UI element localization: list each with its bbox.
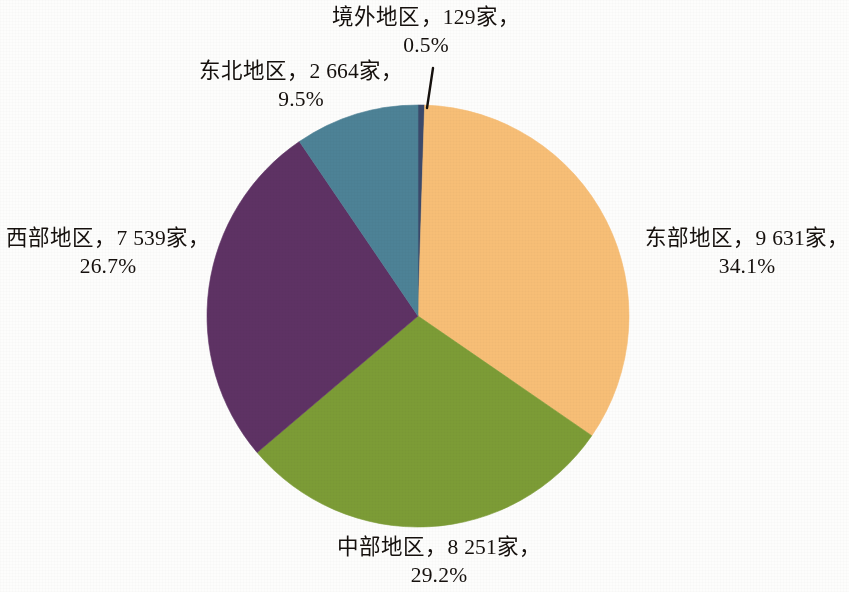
- slice-label-east: 东部地区，9 631家， 34.1%: [632, 225, 849, 281]
- slice-label-northeast: 东北地区，2 664家， 9.5%: [166, 58, 436, 114]
- slice-label-west-line1: 西部地区，7 539家，: [6, 226, 211, 250]
- slice-label-central: 中部地区，8 251家， 29.2%: [304, 534, 574, 590]
- pie-slice-group: [207, 105, 629, 527]
- pie-chart-figure: 境外地区，129家， 0.5% 东北地区，2 664家， 9.5% 西部地区，7…: [0, 0, 849, 592]
- slice-label-east-line2: 34.1%: [632, 253, 849, 281]
- slice-label-east-line1: 东部地区，9 631家，: [645, 226, 849, 250]
- slice-label-central-line1: 中部地区，8 251家，: [337, 535, 542, 559]
- slice-label-west: 西部地区，7 539家， 26.7%: [0, 225, 228, 281]
- slice-label-central-line2: 29.2%: [304, 562, 574, 590]
- slice-label-overseas-line1: 境外地区，129家，: [332, 5, 520, 29]
- slice-label-northeast-line1: 东北地区，2 664家，: [199, 59, 404, 83]
- slice-label-overseas-line2: 0.5%: [286, 32, 566, 60]
- slice-label-northeast-line2: 9.5%: [166, 86, 436, 114]
- slice-label-west-line2: 26.7%: [0, 253, 228, 281]
- slice-label-overseas: 境外地区，129家， 0.5%: [286, 4, 566, 60]
